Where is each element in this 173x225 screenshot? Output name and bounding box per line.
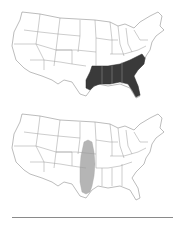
us-map-bottom [0, 112, 173, 212]
us-map-top-svg [0, 0, 173, 112]
horizontal-rule [12, 217, 173, 218]
us-map-top [0, 0, 173, 112]
us-map-bottom-svg [0, 112, 173, 212]
